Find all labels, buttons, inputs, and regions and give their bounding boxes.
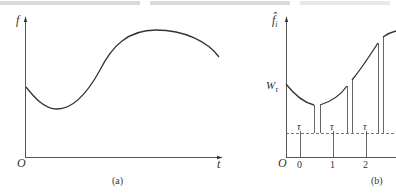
curve-segment-1 (286, 84, 314, 105)
tick-label-1: 1 (330, 159, 335, 170)
tick-label-0: 0 (297, 159, 302, 170)
origin-label-a: O (17, 156, 26, 170)
y-axis-label-a: f (16, 13, 21, 27)
tau-label: τ (297, 121, 301, 132)
caption-b: (b) (371, 175, 383, 187)
figure-a: f O t (a) (16, 13, 222, 187)
origin-label-b: O (278, 156, 287, 170)
curve-segment-3 (352, 43, 378, 80)
y-axis-label-b: f̂i (272, 12, 278, 29)
signal-curve-a (26, 30, 219, 109)
tau-label: τ (363, 121, 367, 132)
curve-segment-2 (320, 86, 347, 105)
threshold-label: Wτ (266, 79, 279, 94)
curve-segment-4 (383, 31, 396, 37)
tau-label: τ (330, 121, 334, 132)
x-axis-label-a: t (217, 157, 221, 171)
caption-a: (a) (112, 175, 123, 187)
figure-b: τ τ τ 0 1 2 f̂i Wτ O (b) (266, 12, 396, 187)
figure: f O t (a) τ τ τ 0 1 2 f̂i Wτ (0, 0, 396, 196)
tick-label-2: 2 (363, 159, 368, 170)
